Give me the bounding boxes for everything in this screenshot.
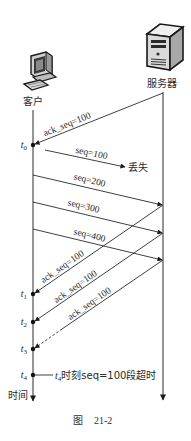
timeout-note: t4时刻seq=100段超时 [55, 369, 156, 383]
figure-caption-number: 21-2 [94, 415, 112, 426]
message-label: seq=200 [73, 171, 107, 188]
message-label: seq=400 [73, 226, 107, 243]
svg-text:t4: t4 [21, 369, 28, 382]
svg-text:t2: t2 [21, 316, 28, 329]
computer-icon [24, 52, 56, 90]
client-label: 客户 [23, 95, 43, 107]
message-arrow-ack-initial [35, 93, 163, 144]
time-axis-label: 时间 [8, 389, 28, 401]
lost-label: 丢失 [128, 161, 148, 173]
server-label: 服务器 [147, 77, 177, 89]
message-label: seq=100 [75, 145, 109, 162]
tcp-timeout-sequence-diagram: 客户 服务器 时间 ack_seq=100 seq=100 丢失 seq=200… [0, 0, 191, 441]
svg-text:t0: t0 [21, 139, 28, 152]
server-icon [147, 24, 183, 70]
message-label: seq=300 [67, 197, 101, 214]
figure-caption-prefix: 图 [73, 415, 83, 426]
svg-text:t3: t3 [21, 343, 28, 356]
svg-text:t1: t1 [21, 288, 28, 301]
